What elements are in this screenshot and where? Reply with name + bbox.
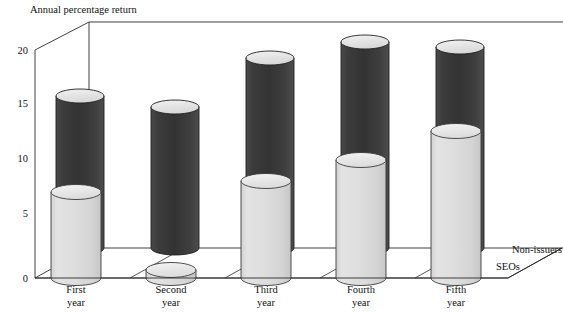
cat-label-fifth-year: Fifth year [446,284,467,308]
svg-text:Fifth: Fifth [446,284,467,295]
bar-top-ellipse [431,124,481,139]
legend-label-seos: SEOs [496,261,520,272]
svg-text:Third: Third [254,284,278,295]
bar-top-ellipse [336,153,386,168]
bar-seos-fourth-year[interactable] [336,153,386,286]
x-axis-category-labels: First year Second year Third year Fourth… [66,284,467,308]
cat-label-third-year: Third year [254,284,278,308]
bar-top-ellipse [341,35,389,49]
svg-text:year: year [447,297,466,308]
svg-text:year: year [162,297,181,308]
annual-percentage-return-chart: 20 15 10 5 0 Annual percentage return [0,0,563,313]
bar-seos-first-year[interactable] [51,185,101,286]
bar-top-ellipse [56,89,104,103]
svg-text:First: First [66,284,85,295]
svg-text:year: year [67,297,86,308]
y-tick-5: 5 [23,208,28,219]
bar-top-ellipse [51,185,101,200]
y-tick-0: 0 [23,273,28,284]
bar-seos-fifth-year[interactable] [431,124,481,286]
y-tick-10: 10 [18,153,29,164]
floor-front-edge-overlay [35,248,562,278]
bar-top-ellipse [241,174,291,189]
y-tick-15: 15 [18,98,29,109]
bar-top-ellipse [246,51,294,65]
svg-text:year: year [352,297,371,308]
svg-text:Second: Second [156,284,188,295]
bar-seos-second-year[interactable] [146,263,196,286]
cat-label-first-year: First year [66,284,85,308]
bar-non-issuers-second-year[interactable] [151,100,199,255]
y-axis-top-diagonal [35,22,89,50]
bar-top-ellipse [151,100,199,114]
legend-label-non-issuers: Non-issuers [512,244,562,255]
chart-title: Annual percentage return [30,4,137,15]
cat-label-second-year: Second year [156,284,188,308]
bar-top-ellipse [436,40,484,54]
chart-container: 20 15 10 5 0 Annual percentage return [0,0,563,313]
svg-text:year: year [257,297,276,308]
bar-seos-third-year[interactable] [241,174,291,286]
y-tick-20: 20 [18,45,29,56]
svg-text:Fourth: Fourth [347,284,376,295]
cat-label-fourth-year: Fourth year [347,284,376,308]
bar-top-ellipse [146,263,196,278]
y-axis-tick-labels: 20 15 10 5 0 [18,45,29,284]
